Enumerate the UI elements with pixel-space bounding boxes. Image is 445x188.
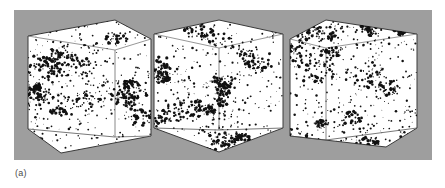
figure-caption: (a) — [15, 168, 27, 179]
simulation-cube-right — [278, 10, 432, 160]
simulation-cube-left — [14, 10, 160, 160]
cube-right-svg — [278, 10, 432, 160]
cube-left-svg — [14, 10, 160, 160]
figure-root: (a) — [0, 0, 445, 188]
simulation-cube-middle — [147, 10, 290, 160]
cube-middle-svg — [147, 10, 290, 160]
figure-image-panel — [14, 10, 432, 160]
